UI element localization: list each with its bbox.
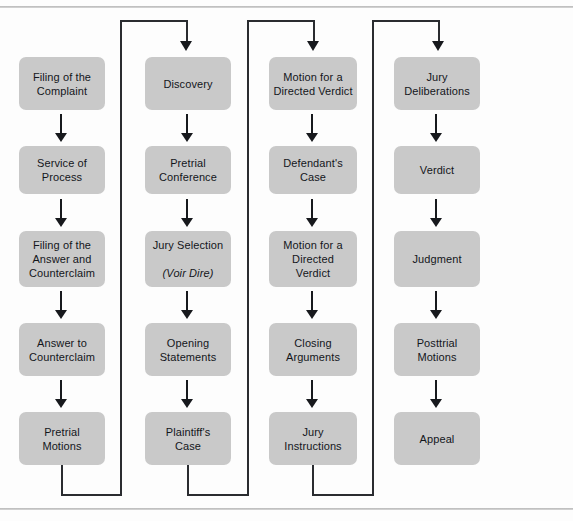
arrow-down-icon <box>180 41 192 51</box>
connector-3-segment-up <box>372 20 374 496</box>
node-verdict[interactable]: Verdict <box>394 146 480 194</box>
arrow-down-icon <box>55 380 68 408</box>
connector-1-segment-up <box>120 20 122 496</box>
node-closing-arguments[interactable]: Closing Arguments <box>269 323 357 376</box>
node-label: Plaintiff's Case <box>166 425 211 453</box>
node-defendants-case[interactable]: Defendant's Case <box>269 146 357 194</box>
connector-3-segment-down <box>312 465 314 496</box>
node-motion-for-a-directed-verdict-1[interactable]: Motion for a Directed Verdict <box>269 57 357 110</box>
node-filing-of-the-complaint[interactable]: Filing of the Complaint <box>19 57 105 110</box>
connector-3-segment-enter <box>438 20 440 43</box>
node-label: Service of Process <box>37 156 87 184</box>
connector-1-segment-right <box>61 494 122 496</box>
arrow-down-icon <box>181 380 194 408</box>
node-label: Answer to Counterclaim <box>29 336 95 364</box>
node-motion-for-a-directed-verdict-2[interactable]: Motion for a Directed Verdict <box>269 231 357 287</box>
arrow-down-icon <box>430 199 443 227</box>
node-opening-statements[interactable]: Opening Statements <box>145 323 231 376</box>
node-label: Posttrial Motions <box>417 336 458 364</box>
node-label: Pretrial Conference <box>159 156 217 184</box>
node-discovery[interactable]: Discovery <box>145 57 231 110</box>
arrow-down-icon <box>430 291 443 319</box>
arrow-down-icon <box>306 114 319 142</box>
connector-2-segment-enter <box>313 20 315 43</box>
node-jury-instructions[interactable]: Jury Instructions <box>269 412 357 465</box>
arrow-down-icon <box>181 291 194 319</box>
connector-2-segment-top <box>247 20 315 22</box>
arrow-down-icon <box>181 114 194 142</box>
node-label: Judgment <box>412 252 461 266</box>
node-label: Discovery <box>163 77 212 91</box>
arrow-down-icon <box>306 199 319 227</box>
connector-3-segment-top <box>372 20 440 22</box>
connector-2-segment-up <box>247 20 249 496</box>
node-label: Motion for a Directed Verdict <box>273 70 352 98</box>
node-pretrial-motions[interactable]: Pretrial Motions <box>19 412 105 465</box>
node-posttrial-motions[interactable]: Posttrial Motions <box>394 323 480 376</box>
node-label: Jury Instructions <box>284 425 341 453</box>
node-label: Motion for a Directed Verdict <box>283 238 342 280</box>
connector-1-segment-top <box>120 20 188 22</box>
arrow-down-icon <box>55 114 68 142</box>
node-answer-to-counterclaim[interactable]: Answer to Counterclaim <box>19 323 105 376</box>
connector-1-segment-enter <box>186 20 188 43</box>
arrow-down-icon <box>306 380 319 408</box>
arrow-down-icon <box>306 291 319 319</box>
connector-2-segment-down <box>187 465 189 496</box>
node-judgment[interactable]: Judgment <box>394 231 480 287</box>
node-plaintiffs-case[interactable]: Plaintiff's Case <box>145 412 231 465</box>
node-label-italic: (Voir Dire) <box>153 266 224 280</box>
connector-1-segment-down <box>61 465 63 496</box>
node-jury-deliberations[interactable]: Jury Deliberations <box>394 57 480 110</box>
node-label: Filing of the Complaint <box>33 70 91 98</box>
connector-3-segment-right <box>312 494 374 496</box>
node-service-of-process[interactable]: Service of Process <box>19 146 105 194</box>
arrow-down-icon <box>55 291 68 319</box>
node-label: Jury Deliberations <box>404 70 470 98</box>
node-jury-selection[interactable]: Jury Selection(Voir Dire) <box>145 231 231 287</box>
node-label: Appeal <box>420 432 455 446</box>
node-label: Jury Selection(Voir Dire) <box>153 238 224 280</box>
node-label: Pretrial Motions <box>42 425 81 453</box>
arrow-down-icon <box>430 380 443 408</box>
node-pretrial-conference[interactable]: Pretrial Conference <box>145 146 231 194</box>
arrow-down-icon <box>432 41 444 51</box>
arrow-down-icon <box>307 41 319 51</box>
page-rule-bottom <box>0 508 573 510</box>
node-label: Filing of the Answer and Counterclaim <box>29 238 95 280</box>
node-label: Defendant's Case <box>283 156 342 184</box>
arrow-down-icon <box>55 199 68 227</box>
flowchart-canvas: Filing of the Complaint Service of Proce… <box>0 0 573 521</box>
node-label: Opening Statements <box>160 336 217 364</box>
node-appeal[interactable]: Appeal <box>394 412 480 465</box>
arrow-down-icon <box>430 114 443 142</box>
arrow-down-icon <box>181 199 194 227</box>
page-rule-top <box>0 6 573 8</box>
connector-2-segment-right <box>187 494 249 496</box>
node-filing-of-the-answer-and-counterclaim[interactable]: Filing of the Answer and Counterclaim <box>19 231 105 287</box>
node-label: Closing Arguments <box>286 336 340 364</box>
node-label: Verdict <box>420 163 454 177</box>
